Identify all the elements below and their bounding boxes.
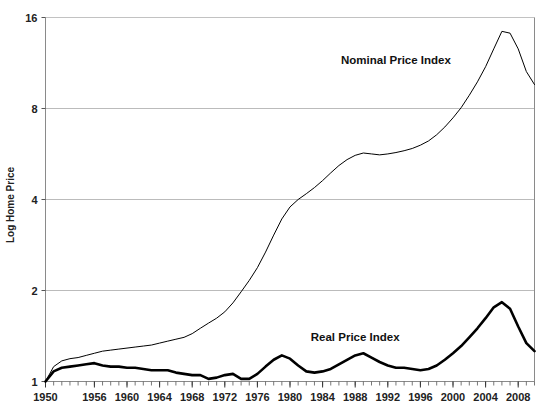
home-price-index-chart: 124816 195019561960196419681972197619801… [0,0,555,414]
x-tick-label-1996: 1996 [408,391,432,403]
chart-container: 124816 195019561960196419681972197619801… [0,0,555,414]
x-tick-label-1968: 1968 [180,391,204,403]
y-tick-label-2: 2 [31,285,37,297]
x-tick-label-1960: 1960 [115,391,139,403]
x-tick-label-1972: 1972 [213,391,237,403]
x-tick-label-2000: 2000 [441,391,465,403]
x-tick-label-1956: 1956 [82,391,106,403]
series-label-real: Real Price Index [311,331,400,343]
x-tick-label-1992: 1992 [376,391,400,403]
x-tick-label-1964: 1964 [147,391,172,403]
x-tick-label-1980: 1980 [278,391,302,403]
series-label-nominal: Nominal Price Index [341,54,452,66]
x-tick-label-2004: 2004 [473,391,498,403]
x-tick-label-1950: 1950 [33,391,57,403]
x-tick-label-1988: 1988 [343,391,367,403]
y-tick-label-4: 4 [31,194,38,206]
y-tick-label-16: 16 [25,12,37,24]
x-tick-label-2008: 2008 [506,391,530,403]
y-tick-label-8: 8 [31,103,37,115]
chart-background [0,0,555,414]
y-tick-label-1: 1 [31,376,37,388]
x-tick-label-1984: 1984 [310,391,335,403]
x-tick-label-1976: 1976 [245,391,269,403]
y-axis-title: Log Home Price [5,167,16,244]
